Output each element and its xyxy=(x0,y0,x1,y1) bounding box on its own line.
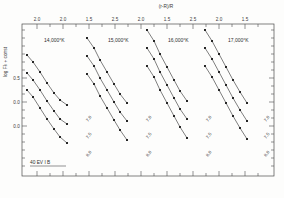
data-point xyxy=(119,93,121,95)
data-point xyxy=(119,129,121,131)
data-point xyxy=(93,65,95,67)
data-point xyxy=(53,110,55,112)
curve-label: 8.0 xyxy=(85,149,93,157)
data-point xyxy=(225,102,227,104)
data-point xyxy=(32,61,34,63)
top-tick-label: 2.5 xyxy=(190,17,197,22)
data-point xyxy=(106,71,108,73)
corner-note: 40 EV I B xyxy=(30,160,50,165)
data-point xyxy=(211,40,213,42)
data-point xyxy=(186,118,188,120)
data-point xyxy=(159,53,161,55)
curve-label: 7.5 xyxy=(205,131,213,139)
top-tick-label: 2.5 xyxy=(112,17,119,22)
curve-label: 8.0 xyxy=(145,149,153,157)
data-point xyxy=(218,71,220,73)
left-tick-label: 0.5 xyxy=(13,76,20,81)
data-point xyxy=(146,47,148,49)
left-tick-label: 0.0 xyxy=(13,124,20,129)
data-point xyxy=(86,37,88,39)
top-tick-label: 1.5 xyxy=(164,17,171,22)
top-tick-label: 2.0 xyxy=(138,17,145,22)
panel-temperature-label: 15,000°K xyxy=(108,37,129,43)
panel-temperature-label: 14,000°K xyxy=(44,37,65,43)
top-tick-label: 1.5 xyxy=(242,17,249,22)
data-point xyxy=(59,118,61,120)
data-point xyxy=(39,107,41,109)
data-point xyxy=(232,79,234,81)
data-point xyxy=(32,79,34,81)
data-point xyxy=(211,58,213,60)
data-point xyxy=(225,66,227,68)
data-point xyxy=(39,89,41,91)
data-point xyxy=(46,118,48,120)
data-point xyxy=(246,120,248,122)
top-tick-label: 2.0 xyxy=(34,17,41,22)
curve-label: 7.5 xyxy=(145,131,153,139)
data-point xyxy=(99,95,101,97)
data-point xyxy=(93,83,95,85)
data-point xyxy=(26,89,28,91)
data-point xyxy=(86,55,88,57)
curve-label: 7.5 xyxy=(263,131,271,139)
data-point xyxy=(204,65,206,67)
data-point xyxy=(159,89,161,91)
panel-temperature-label: 16,000°K xyxy=(168,37,189,43)
data-point xyxy=(46,100,48,102)
data-point xyxy=(225,84,227,86)
curve-label: 8.0 xyxy=(263,149,271,157)
data-point xyxy=(113,83,115,85)
data-point xyxy=(59,136,61,138)
data-point xyxy=(26,72,28,74)
scientific-plot: (r-R)/Rlog Fλ + const2.02.01.52.52.01.52… xyxy=(0,0,284,198)
data-point xyxy=(53,128,55,130)
data-point xyxy=(211,76,213,78)
data-point xyxy=(146,65,148,67)
data-point xyxy=(99,59,101,61)
left-axis-label: log Fλ + const xyxy=(3,46,8,77)
data-point xyxy=(32,96,34,98)
panel-temperature-label: 17,000°K xyxy=(228,37,249,43)
data-point xyxy=(246,102,248,104)
data-point xyxy=(119,111,121,113)
data-point xyxy=(93,47,95,49)
data-point xyxy=(106,107,108,109)
data-point xyxy=(86,73,88,75)
data-point xyxy=(153,58,155,60)
data-point xyxy=(173,79,175,81)
data-point xyxy=(232,115,234,117)
data-point xyxy=(179,108,181,110)
data-point xyxy=(218,89,220,91)
data-point xyxy=(204,29,206,31)
top-tick-label: 2.0 xyxy=(60,17,67,22)
data-point xyxy=(159,71,161,73)
curve-label: 8.0 xyxy=(205,149,213,157)
data-point xyxy=(173,97,175,99)
top-tick-label: 2.0 xyxy=(216,17,223,22)
left-tick-label: 0.0 xyxy=(13,100,20,105)
data-point xyxy=(218,53,220,55)
data-point xyxy=(59,99,61,101)
figure-container: (r-R)/Rlog Fλ + const2.02.01.52.52.01.52… xyxy=(0,0,284,198)
top-axis-label: (r-R)/R xyxy=(159,4,174,9)
data-point xyxy=(239,91,241,93)
data-point xyxy=(179,126,181,128)
data-point xyxy=(66,123,68,125)
data-point xyxy=(239,109,241,111)
data-point xyxy=(179,90,181,92)
data-point xyxy=(204,47,206,49)
data-point xyxy=(166,66,168,68)
top-tick-label: 1.5 xyxy=(86,17,93,22)
data-point xyxy=(113,101,115,103)
data-point xyxy=(126,139,128,141)
data-point xyxy=(239,127,241,129)
data-point xyxy=(113,119,115,121)
data-point xyxy=(66,104,68,106)
data-point xyxy=(46,82,48,84)
data-point xyxy=(166,102,168,104)
data-point xyxy=(53,92,55,94)
curve-label: 7.0 xyxy=(205,114,213,122)
data-point xyxy=(153,40,155,42)
curve-label: 7.0 xyxy=(85,114,93,122)
data-point xyxy=(146,29,148,31)
